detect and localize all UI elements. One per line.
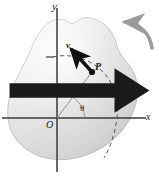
velocity-label: v xyxy=(66,41,70,50)
body-hatching xyxy=(0,0,159,181)
theta-angle-label: θ xyxy=(80,104,84,113)
diagram-canvas xyxy=(0,0,159,181)
rigid-body-shape xyxy=(0,0,159,181)
origin-label: O xyxy=(46,120,53,130)
rotational-motion-diagram: y x O P r θ s v xyxy=(0,0,159,181)
arc-length-label: s xyxy=(114,84,118,93)
radius-label: r xyxy=(68,90,72,99)
point-p-label: P xyxy=(95,62,101,72)
y-axis-label: y xyxy=(52,1,57,12)
rotation-direction-arrow xyxy=(125,22,152,48)
x-axis-label: x xyxy=(146,112,150,122)
